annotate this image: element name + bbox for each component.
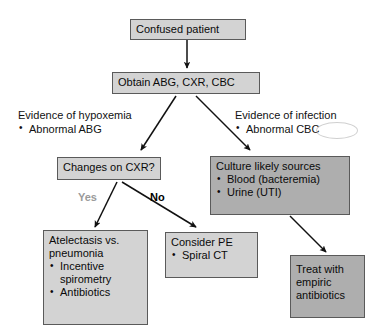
cbc-annotation-ellipse — [316, 122, 358, 139]
list-item: Incentive spirometry — [49, 260, 142, 286]
list-item-continuation: spirometry — [60, 273, 142, 286]
list-item-text: Incentive — [60, 260, 104, 272]
note-hypoxemia: Evidence of hypoxemia Abnormal ABG — [18, 108, 132, 136]
node-treat-empiric-antibiotics[interactable]: Treat with empiric antibiotics — [290, 255, 365, 318]
node-confused-patient[interactable]: Confused patient — [130, 19, 246, 40]
edge-label-yes: Yes — [78, 191, 97, 203]
arrow-cxr-no-to-pe — [122, 182, 196, 227]
node-changes-on-cxr-label: Changes on CXR? — [63, 161, 155, 174]
node-culture-likely-sources[interactable]: Culture likely sources Blood (bacteremia… — [210, 156, 350, 215]
list-item: Abnormal ABG — [18, 122, 132, 136]
list-item: Blood (bacteremia) — [216, 173, 344, 186]
node-treat-label-line3: antibiotics — [296, 289, 359, 302]
list-item: Spiral CT — [171, 249, 252, 262]
note-hypoxemia-head: Evidence of hypoxemia — [18, 108, 132, 122]
arrow-culture-to-treat — [290, 216, 326, 252]
edge-label-no: No — [150, 191, 165, 203]
node-atelectasis-label-line2: pneumonia — [49, 247, 142, 260]
node-confused-patient-label: Confused patient — [136, 23, 240, 36]
node-obtain-tests[interactable]: Obtain ABG, CXR, CBC — [112, 72, 260, 94]
node-treat-label-line1: Treat with — [296, 263, 359, 276]
note-hypoxemia-bullets: Abnormal ABG — [18, 122, 132, 136]
node-consider-pe[interactable]: Consider PE Spiral CT — [165, 232, 258, 278]
flowchart-canvas: Confused patient Obtain ABG, CXR, CBC Ev… — [0, 0, 380, 333]
node-atelectasis-pneumonia[interactable]: Atelectasis vs. pneumonia Incentive spir… — [43, 230, 148, 325]
node-treat-label-line2: empiric — [296, 276, 359, 289]
node-obtain-tests-label: Obtain ABG, CXR, CBC — [118, 76, 254, 89]
node-consider-pe-bullets: Spiral CT — [171, 249, 252, 262]
list-item: Urine (UTI) — [216, 186, 344, 199]
arrow-obtain-to-cxr — [141, 96, 176, 150]
node-culture-likely-sources-label: Culture likely sources — [216, 160, 344, 173]
arrow-cxr-yes-to-atelectasis — [95, 182, 117, 227]
node-consider-pe-label: Consider PE — [171, 236, 252, 249]
node-atelectasis-label-line1: Atelectasis vs. — [49, 234, 142, 247]
note-infection-head: Evidence of infection — [235, 108, 337, 122]
node-culture-bullets: Blood (bacteremia) Urine (UTI) — [216, 173, 344, 199]
node-atelectasis-bullets: Incentive spirometry Antibiotics — [49, 260, 142, 299]
node-changes-on-cxr[interactable]: Changes on CXR? — [57, 157, 161, 180]
list-item: Antibiotics — [49, 286, 142, 299]
